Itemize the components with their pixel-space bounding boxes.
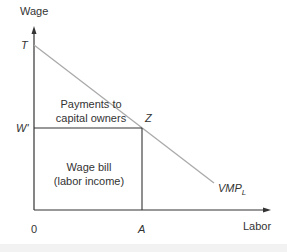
point-t-label: T xyxy=(21,40,28,51)
x-axis-arrow-icon xyxy=(263,208,271,213)
lower-region-line2: (labor income) xyxy=(36,174,142,188)
curve-label: VMPL xyxy=(218,183,246,197)
point-z-label: Z xyxy=(145,113,152,124)
upper-region-line1: Payments to xyxy=(36,97,146,111)
y-axis-arrow-icon xyxy=(32,26,37,34)
upper-region-label: Payments to capital owners xyxy=(36,97,146,125)
diagram-canvas xyxy=(0,0,287,252)
y-axis-label: Wage xyxy=(20,6,48,17)
upper-region-line2: capital owners xyxy=(36,111,146,125)
x-axis-label: Labor xyxy=(243,221,271,232)
lower-region-line1: Wage bill xyxy=(36,160,142,174)
curve-label-subscript: L xyxy=(242,188,246,197)
curve-label-main: VMP xyxy=(218,182,242,194)
bottom-strip xyxy=(0,244,287,252)
origin-label: 0 xyxy=(31,224,37,235)
point-w-label: W' xyxy=(16,123,28,134)
lower-region-label: Wage bill (labor income) xyxy=(36,160,142,188)
point-a-label: A xyxy=(138,224,145,235)
